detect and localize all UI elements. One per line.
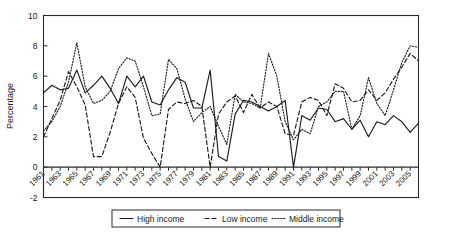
x-tick-label: 1975 xyxy=(144,169,163,188)
y-tick-label: 6 xyxy=(33,71,38,81)
y-tick-label: 2 xyxy=(33,132,38,142)
y-tick-label: 10 xyxy=(28,11,38,21)
chart-figure: -20246810 196119631965196719691971197319… xyxy=(0,0,450,238)
x-tick-label: 1981 xyxy=(194,169,213,188)
x-tick-label: 1997 xyxy=(327,169,346,188)
chart-legend: High incomeLow incomeMiddle income xyxy=(112,210,344,227)
x-tick-label: 1999 xyxy=(344,169,363,188)
x-tick-label: 2003 xyxy=(377,169,396,188)
x-tick-label: 1987 xyxy=(244,169,263,188)
x-tick-label: 2005 xyxy=(394,169,413,188)
x-tick-label: 1963 xyxy=(44,169,63,188)
x-tick-label: 2001 xyxy=(361,169,380,188)
x-tick-label: 1971 xyxy=(111,169,130,188)
x-tick-label: 1967 xyxy=(77,169,96,188)
legend-label: Low income xyxy=(222,214,268,224)
x-tick-label: 1965 xyxy=(61,169,80,188)
x-tick-label: 1985 xyxy=(227,169,246,188)
x-axis: 1961196319651967196919711973197519771979… xyxy=(27,167,418,188)
y-tick-label: 8 xyxy=(33,41,38,51)
legend-label: Middle income xyxy=(289,214,344,224)
x-tick-label: 1977 xyxy=(161,169,180,188)
x-tick-label: 1983 xyxy=(211,169,230,188)
series-line-low-income xyxy=(44,53,419,167)
y-tick-label: -2 xyxy=(30,193,38,203)
x-tick-label: 1989 xyxy=(261,169,280,188)
y-tick-label: 4 xyxy=(33,102,38,112)
x-tick-label: 1993 xyxy=(294,169,313,188)
y-axis-title: Percentage xyxy=(5,83,15,129)
y-tick-label: 0 xyxy=(33,162,38,172)
series-group xyxy=(44,43,419,167)
x-tick-label: 1973 xyxy=(127,169,146,188)
line-chart: -20246810 196119631965196719691971197319… xyxy=(0,0,450,238)
x-tick-label: 1969 xyxy=(94,169,113,188)
x-tick-label: 1979 xyxy=(177,169,196,188)
x-tick-label: 1995 xyxy=(311,169,330,188)
series-line-middle-income xyxy=(44,43,419,145)
x-tick-label: 1991 xyxy=(277,169,296,188)
legend-label: High income xyxy=(137,214,185,224)
